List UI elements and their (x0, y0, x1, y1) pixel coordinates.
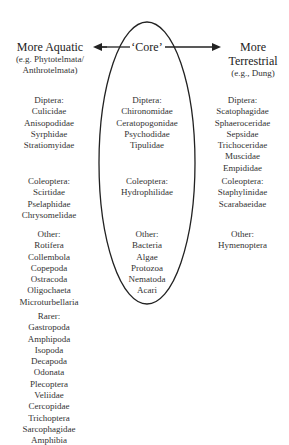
taxon: Ceratopogonidae (100, 118, 194, 129)
center-group-diptera: Diptera: Chironomidae Ceratopogonidae Ps… (100, 95, 194, 151)
taxon: Sarcophagidae (0, 424, 98, 435)
taxon: Trichoptera (0, 413, 98, 424)
header-subtitle: (e.g., Dung) (222, 68, 284, 79)
group-label: Coleoptera: (100, 176, 194, 187)
taxon: Psychodidae (100, 129, 194, 140)
taxon: Bacteria (100, 240, 194, 251)
taxon: Acari (100, 285, 194, 296)
taxon: Anisopodidae (0, 118, 98, 129)
taxon: Pselaphidae (0, 199, 98, 210)
group-label: Coleoptera: (196, 176, 289, 187)
taxon: Amphibia (0, 435, 98, 445)
taxon: Culicidae (0, 106, 98, 117)
taxon: Trichoceridae (196, 140, 289, 151)
header-subtitle-line: (e.g. Phytotelmata/ (0, 54, 100, 65)
center-group-coleoptera: Coleoptera: Hydrophilidae (100, 176, 194, 199)
right-group-other: Other: Hymenoptera (196, 229, 289, 252)
group-label: Other: (0, 229, 98, 240)
taxon: Protozoa (100, 263, 194, 274)
taxon: Nematoda (100, 274, 194, 285)
left-group-coleoptera: Coleoptera: Scirtidae Pselaphidae Chryso… (0, 176, 98, 221)
group-label: Other: (196, 229, 289, 240)
taxon: Scarabaeidae (196, 199, 289, 210)
taxon: Scirtidae (0, 187, 98, 198)
header-title: More Aquatic (0, 40, 100, 54)
taxon: Sepsidae (196, 129, 289, 140)
taxon: Microturbellaria (0, 297, 98, 308)
taxon: Hydrophilidae (100, 187, 194, 198)
header-title: ‘Core’ (112, 40, 182, 54)
taxon: Staphylinidae (196, 187, 289, 198)
taxon: Isopoda (0, 345, 98, 356)
group-label: Rarer: (0, 311, 98, 322)
taxon: Hymenoptera (196, 240, 289, 251)
taxon: Algae (100, 252, 194, 263)
taxon: Tipulidae (100, 140, 194, 151)
taxon: Oligochaeta (0, 285, 98, 296)
header-more-aquatic: More Aquatic (e.g. Phytotelmata/ Anthrot… (0, 40, 100, 76)
taxon: Amphipoda (0, 334, 98, 345)
taxon: Chironomidae (100, 106, 194, 117)
taxon: Decapoda (0, 356, 98, 367)
header-more-terrestrial: More Terrestrial (e.g., Dung) (222, 40, 284, 79)
taxon: Cercopidae (0, 401, 98, 412)
taxon: Rotifera (0, 240, 98, 251)
header-core: ‘Core’ (112, 40, 182, 54)
header-title-line: More (222, 40, 284, 54)
taxon: Gastropoda (0, 322, 98, 333)
group-label: Diptera: (196, 95, 289, 106)
group-label: Other: (100, 229, 194, 240)
taxon: Collembola (0, 252, 98, 263)
taxon: Syrphidae (0, 129, 98, 140)
taxon: Veliidae (0, 390, 98, 401)
right-group-diptera: Diptera: Scatophagidae Sphaeroceridae Se… (196, 95, 289, 174)
taxon: Copepoda (0, 263, 98, 274)
taxon: Odonata (0, 367, 98, 378)
taxon: Stratiomyidae (0, 140, 98, 151)
group-label: Diptera: (100, 95, 194, 106)
header-subtitle-line: Anthrotelmata) (0, 65, 100, 76)
taxon: Ostracoda (0, 274, 98, 285)
group-label: Diptera: (0, 95, 98, 106)
left-group-other: Other: Rotifera Collembola Copepoda Ostr… (0, 229, 98, 308)
left-group-diptera: Diptera: Culicidae Anisopodidae Syrphida… (0, 95, 98, 151)
center-group-other: Other: Bacteria Algae Protozoa Nematoda … (100, 229, 194, 297)
taxon: Muscidae (196, 151, 289, 162)
right-group-coleoptera: Coleoptera: Staphylinidae Scarabaeidae (196, 176, 289, 210)
taxon: Empididae (196, 163, 289, 174)
left-group-rarer: Rarer: Gastropoda Amphipoda Isopoda Deca… (0, 311, 98, 445)
header-title-line: Terrestrial (222, 54, 284, 68)
taxon: Scatophagidae (196, 106, 289, 117)
taxon: Sphaeroceridae (196, 118, 289, 129)
taxon: Chrysomelidae (0, 210, 98, 221)
taxon: Plecoptera (0, 379, 98, 390)
group-label: Coleoptera: (0, 176, 98, 187)
